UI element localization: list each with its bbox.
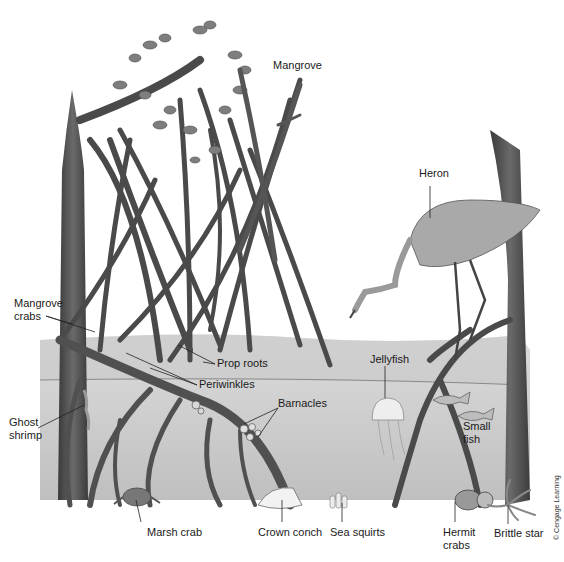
label-mangrove-crabs: Mangrove crabs: [14, 297, 63, 323]
label-mangrove: Mangrove: [273, 59, 322, 72]
label-marsh-crab: Marsh crab: [147, 526, 202, 539]
label-hermit-crabs: Hermit crabs: [443, 526, 475, 552]
label-jellyfish: Jellyfish: [370, 353, 409, 366]
label-brittle-star: Brittle star: [494, 527, 544, 540]
label-sea-squirts: Sea squirts: [330, 526, 385, 539]
mangrove-ecosystem-illustration: [0, 0, 564, 562]
label-prop-roots: Prop roots: [217, 357, 268, 370]
left-mangrove-trunk: [58, 90, 88, 500]
prop-roots: [60, 60, 330, 365]
label-barnacles: Barnacles: [278, 397, 327, 410]
label-crown-conch: Crown conch: [258, 526, 322, 539]
label-heron: Heron: [419, 167, 449, 180]
copyright-credit: © Cengage Learning: [553, 475, 560, 540]
label-ghost-shrimp: Ghost shrimp: [9, 416, 42, 442]
label-periwinkles: Periwinkles: [199, 378, 255, 391]
hermit-crabs-illustration: [455, 490, 493, 510]
label-small-fish: Small fish: [463, 420, 491, 446]
